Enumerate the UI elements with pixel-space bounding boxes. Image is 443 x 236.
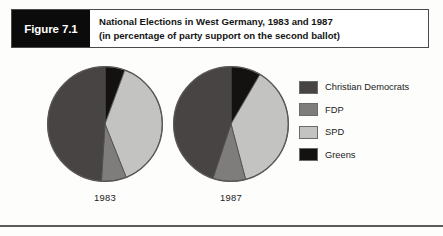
bottom-divider — [0, 225, 443, 227]
legend-label: SPD — [325, 127, 344, 137]
figure-container: Figure 7.1 National Elections in West Ge… — [0, 0, 443, 236]
chart-area: 1983 1987 Christian Democrats FDP SPD — [0, 52, 443, 224]
legend-swatch-icon — [299, 81, 318, 94]
legend-label: Christian Democrats — [325, 82, 409, 92]
legend-item-spd: SPD — [299, 125, 439, 139]
legend-swatch-icon — [299, 126, 318, 139]
pie-slice-christian-democrats — [48, 67, 105, 182]
legend-item-greens: Greens — [299, 148, 439, 162]
legend-item-fdp: FDP — [299, 103, 439, 117]
legend-swatch-icon — [299, 103, 318, 116]
figure-number-tag: Figure 7.1 — [12, 10, 90, 47]
figure-title-line-2: (in percentage of party support on the s… — [99, 29, 424, 42]
pie-svg-1987 — [172, 65, 290, 183]
figure-title-line-1: National Elections in West Germany, 1983… — [99, 15, 424, 28]
legend-item-christian-democrats: Christian Democrats — [299, 80, 439, 94]
pie-label-1983: 1983 — [46, 192, 164, 203]
pie-svg-1983 — [46, 65, 164, 183]
pie-label-1987: 1987 — [172, 192, 290, 203]
figure-header: Figure 7.1 National Elections in West Ge… — [11, 9, 429, 48]
legend: Christian Democrats FDP SPD Greens — [299, 80, 439, 170]
figure-title-block: National Elections in West Germany, 1983… — [90, 10, 428, 47]
legend-label: Greens — [325, 150, 356, 160]
legend-swatch-icon — [299, 148, 318, 161]
legend-label: FDP — [325, 105, 344, 115]
pie-chart-1987: 1987 — [172, 65, 290, 203]
pie-chart-1983: 1983 — [46, 65, 164, 203]
